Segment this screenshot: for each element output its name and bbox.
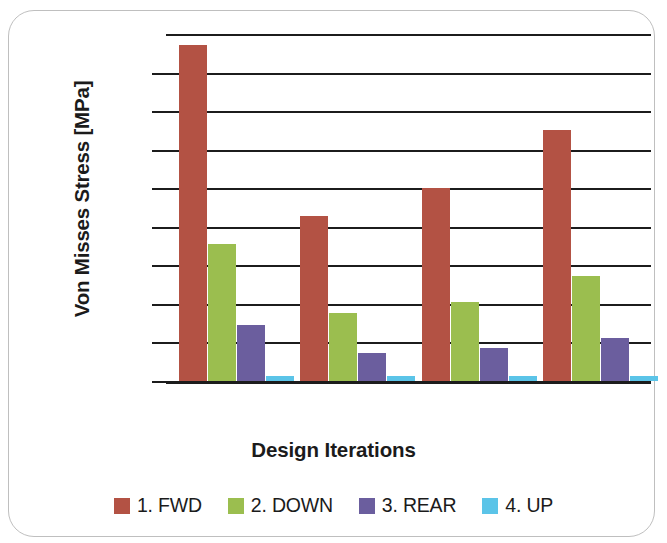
bar[interactable] bbox=[572, 276, 600, 381]
legend-swatch-icon bbox=[359, 498, 375, 514]
y-axis-title: Von Misses Stress [MPa] bbox=[70, 49, 94, 349]
bar-chart-figure: Von Misses Stress [MPa] Design Iteration… bbox=[0, 0, 667, 543]
bar-group bbox=[409, 34, 530, 381]
y-axis-tick bbox=[152, 73, 166, 75]
bar[interactable] bbox=[543, 130, 571, 381]
axis-baseline bbox=[166, 381, 651, 384]
legend-label: 3. REAR bbox=[382, 494, 456, 517]
legend-swatch-icon bbox=[482, 498, 498, 514]
y-axis-tick bbox=[152, 304, 166, 306]
bar-group bbox=[166, 34, 287, 381]
y-axis-tick bbox=[152, 227, 166, 229]
legend-item[interactable]: 2. DOWN bbox=[228, 494, 333, 517]
bar[interactable] bbox=[480, 348, 508, 381]
bar[interactable] bbox=[237, 325, 265, 381]
bar[interactable] bbox=[300, 216, 328, 381]
bar[interactable] bbox=[208, 244, 236, 381]
bar[interactable] bbox=[630, 376, 658, 381]
legend-item[interactable]: 1. FWD bbox=[114, 494, 202, 517]
legend-label: 2. DOWN bbox=[251, 494, 333, 517]
legend-label: 4. UP bbox=[505, 494, 553, 517]
legend-swatch-icon bbox=[114, 498, 130, 514]
y-axis-tick bbox=[152, 111, 166, 113]
x-axis-title: Design Iterations bbox=[0, 438, 667, 462]
legend-swatch-icon bbox=[228, 498, 244, 514]
y-axis-tick bbox=[152, 265, 166, 267]
bar-group bbox=[287, 34, 408, 381]
y-axis-tick bbox=[152, 381, 166, 383]
y-axis-tick bbox=[152, 188, 166, 190]
y-axis-tick bbox=[152, 342, 166, 344]
legend-item[interactable]: 4. UP bbox=[482, 494, 553, 517]
bar-group bbox=[530, 34, 651, 381]
bar[interactable] bbox=[601, 338, 629, 381]
chart-legend: 1. FWD2. DOWN3. REAR4. UP bbox=[0, 494, 667, 517]
bar[interactable] bbox=[451, 302, 479, 381]
legend-label: 1. FWD bbox=[137, 494, 202, 517]
bar[interactable] bbox=[358, 353, 386, 381]
legend-item[interactable]: 3. REAR bbox=[359, 494, 456, 517]
bars-layer bbox=[166, 34, 651, 381]
bar[interactable] bbox=[422, 188, 450, 381]
y-axis-tick bbox=[152, 150, 166, 152]
bar[interactable] bbox=[329, 313, 357, 381]
bar[interactable] bbox=[179, 45, 207, 381]
